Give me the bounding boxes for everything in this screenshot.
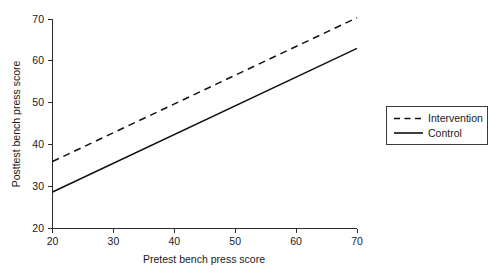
y-tick-label: 20 (32, 222, 44, 234)
y-axis-tick-labels: 20 30 40 50 60 70 (32, 13, 44, 235)
y-axis-title: Posttest bench press score (10, 61, 22, 188)
x-tick-label: 40 (168, 235, 180, 247)
x-tick-label: 60 (290, 235, 302, 247)
x-tick-label: 70 (351, 235, 363, 247)
series-line-control (53, 48, 358, 192)
x-tick-label: 30 (108, 235, 120, 247)
y-tick-label: 50 (32, 96, 44, 108)
x-tick-label: 50 (229, 235, 241, 247)
x-tick-label: 20 (47, 235, 59, 247)
x-axis-ticks (53, 229, 358, 234)
x-axis-title: Pretest bench press score (143, 253, 265, 265)
y-axis-ticks (48, 19, 53, 229)
chart-figure: 20 30 40 50 60 70 20 30 40 50 60 70 Pret… (0, 0, 494, 275)
y-tick-label: 70 (32, 13, 44, 25)
legend: Intervention Control (387, 107, 488, 145)
y-tick-label: 40 (32, 138, 44, 150)
legend-label-intervention: Intervention (428, 112, 483, 124)
y-tick-label: 30 (32, 180, 44, 192)
series-line-intervention (53, 18, 358, 162)
legend-label-control: Control (428, 127, 462, 139)
line-chart: 20 30 40 50 60 70 20 30 40 50 60 70 Pret… (0, 0, 494, 275)
x-axis-tick-labels: 20 30 40 50 60 70 (47, 235, 363, 247)
y-tick-label: 60 (32, 54, 44, 66)
